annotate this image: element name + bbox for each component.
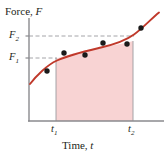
y-tick-label-f2-sub: 2	[15, 35, 19, 43]
x-axis-title-prefix: Time,	[62, 139, 90, 151]
x-tick-label-t1: t1	[51, 124, 57, 137]
y-tick-label-f2: F2	[9, 30, 19, 43]
shaded-impulse-area	[56, 41, 133, 121]
y-axis-title: Force, F	[5, 6, 42, 17]
data-point	[44, 68, 49, 73]
y-tick-label-f1-sub: 1	[15, 57, 19, 65]
x-tick-label-t2: t2	[128, 124, 134, 137]
y-axis-title-symbol: F	[36, 5, 43, 17]
data-point	[82, 52, 87, 57]
force-vs-time-figure: Force, F Time, t F2 F1 t1 t2	[0, 0, 168, 158]
data-point	[100, 40, 105, 45]
y-axis-title-prefix: Force,	[5, 5, 36, 17]
y-tick-label-f1: F1	[9, 52, 19, 65]
plot-canvas	[0, 0, 168, 158]
x-tick-label-t1-sub: 1	[54, 129, 58, 137]
data-point	[61, 50, 66, 55]
data-point	[138, 25, 143, 30]
x-axis-title-symbol: t	[90, 139, 93, 151]
data-point	[124, 41, 129, 46]
x-axis-title: Time, t	[62, 140, 93, 151]
x-tick-label-t2-sub: 2	[131, 129, 135, 137]
